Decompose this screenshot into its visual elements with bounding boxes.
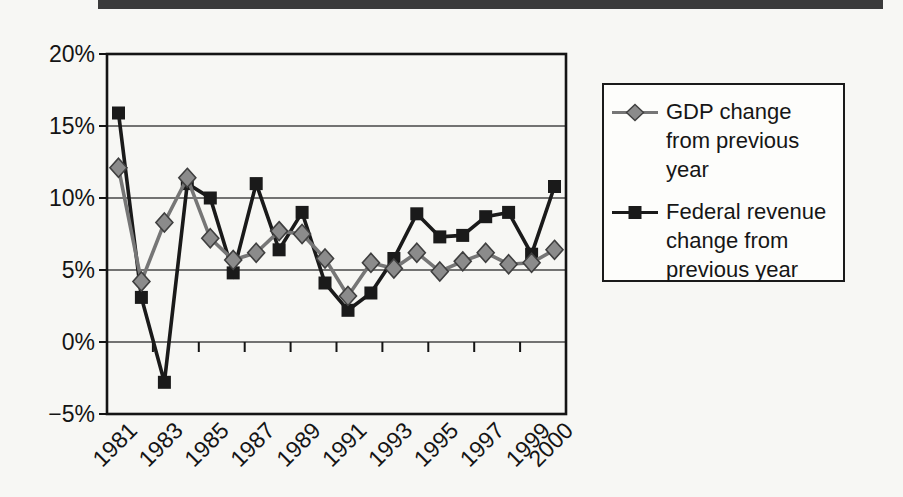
data-point-gdp: [500, 255, 517, 274]
legend-item-gdp: GDP change from previous year: [612, 97, 837, 184]
federal-revenue-square-marker-icon: [612, 203, 658, 222]
y-axis-tick-label: 5%: [62, 257, 95, 283]
plot-frame: [107, 54, 566, 414]
x-axis-tick-label: 1985: [179, 417, 234, 472]
data-point-gdp: [477, 243, 494, 262]
series-line-gdp: [119, 168, 555, 296]
data-point-federal-revenue: [433, 230, 446, 243]
x-axis-tick-label: 1981: [87, 417, 142, 472]
x-axis-tick-label: 1991: [317, 417, 372, 472]
y-axis-tick-label: 20%: [49, 41, 95, 67]
x-axis-tick-label: 1993: [363, 417, 418, 472]
data-point-federal-revenue: [410, 207, 423, 220]
data-point-gdp: [454, 252, 471, 271]
legend: GDP change from previous year Federal re…: [602, 83, 845, 282]
data-point-federal-revenue: [250, 177, 263, 190]
data-point-federal-revenue: [364, 287, 377, 300]
y-axis-tick-label: 10%: [49, 185, 95, 211]
y-axis-tick-label: 0%: [62, 329, 95, 355]
x-axis-tick-label: 1989: [271, 417, 326, 472]
data-point-federal-revenue: [548, 180, 561, 193]
data-point-gdp: [546, 240, 563, 259]
legend-label-federal-revenue: Federal revenue change from previous yea…: [666, 197, 837, 284]
data-point-federal-revenue: [502, 206, 515, 219]
data-point-federal-revenue: [112, 107, 125, 120]
data-point-federal-revenue: [479, 210, 492, 223]
data-point-federal-revenue: [204, 192, 217, 205]
data-point-federal-revenue: [273, 243, 286, 256]
data-point-federal-revenue: [296, 206, 309, 219]
y-axis-tick-label: −5%: [48, 401, 95, 427]
data-point-federal-revenue: [319, 277, 332, 290]
x-axis-tick-label: 1997: [455, 417, 510, 472]
data-point-gdp: [133, 272, 150, 291]
data-point-federal-revenue: [158, 376, 171, 389]
scanned-book-page: 20%15%10%5%0%−5%198119831985198719891991…: [0, 0, 903, 497]
legend-label-gdp: GDP change from previous year: [666, 97, 837, 184]
x-axis-tick-label: 1995: [409, 417, 464, 472]
data-point-federal-revenue: [135, 291, 148, 304]
data-point-federal-revenue: [456, 229, 469, 242]
legend-item-federal-revenue: Federal revenue change from previous yea…: [612, 197, 837, 284]
x-axis-tick-label: 1987: [225, 417, 280, 472]
data-point-gdp: [156, 213, 173, 232]
x-axis-tick-label: 1983: [133, 417, 188, 472]
gdp-diamond-marker-icon: [612, 103, 658, 122]
y-axis-tick-label: 15%: [49, 113, 95, 139]
